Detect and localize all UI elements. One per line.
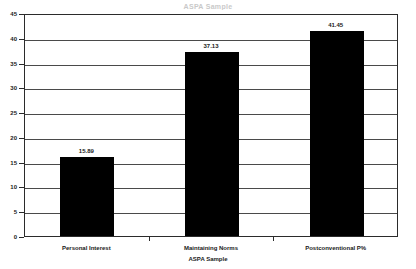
x-axis-category-label: Postconventional P%: [276, 245, 396, 252]
bar-value-label: 15.89: [56, 148, 116, 154]
y-axis-tick-label: 20: [0, 135, 17, 141]
y-axis-tick-label: 40: [0, 36, 17, 42]
x-axis-category-label: Maintaining Norms: [151, 245, 271, 252]
bar: [310, 31, 364, 236]
y-axis-tick-label: 35: [0, 61, 17, 67]
bar-chart: ASPA Sample 051015202530354045 15.8937.1…: [0, 0, 416, 269]
y-axis-tick-label: 15: [0, 160, 17, 166]
y-axis-tick: [19, 237, 24, 238]
chart-title-cropped: ASPA Sample: [0, 0, 416, 10]
x-axis-title: ASPA Sample: [0, 256, 416, 263]
y-axis-tick-label: 30: [0, 85, 17, 91]
y-axis-tick-label: 5: [0, 209, 17, 215]
x-axis-tick: [273, 237, 274, 241]
y-axis-tick-label: 10: [0, 184, 17, 190]
chart-title-text: ASPA Sample: [184, 3, 233, 10]
bar-value-label: 41.45: [306, 22, 366, 28]
x-axis-category-label: Personal Interest: [26, 245, 146, 252]
x-axis-tick: [149, 237, 150, 241]
y-axis-tick-label: 45: [0, 11, 17, 17]
y-axis-tick-label: 25: [0, 110, 17, 116]
y-axis-tick-label: 0: [0, 234, 17, 240]
bar: [60, 157, 114, 236]
bar: [185, 52, 239, 236]
bar-value-label: 37.13: [181, 43, 241, 49]
